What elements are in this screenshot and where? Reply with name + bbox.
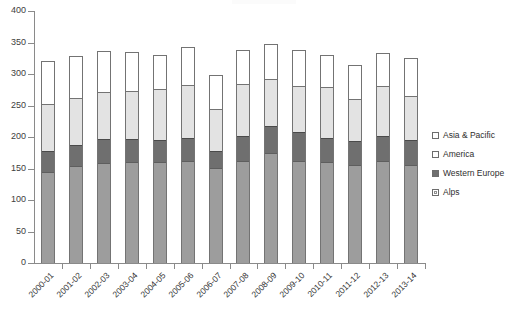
bar-segment-western-europe xyxy=(293,132,305,161)
x-axis-label-2011-12: 2011-12 xyxy=(334,271,362,299)
x-axis-tick xyxy=(118,264,119,269)
bar-segment-asia-pacific xyxy=(42,62,54,104)
bar-segment-america xyxy=(210,109,222,152)
x-axis-label-2010-11: 2010-11 xyxy=(306,271,334,299)
x-axis-label-2003-04: 2003-04 xyxy=(111,271,139,299)
stacked-bar-chart: 050100150200250300350400 2000-012001-022… xyxy=(0,0,525,321)
x-axis-tick xyxy=(425,264,426,269)
y-axis-label: 250 xyxy=(0,101,26,110)
bar-2010-11[interactable] xyxy=(320,55,334,263)
y-axis-label: 400 xyxy=(0,6,26,15)
y-axis-label-wrap: 250 xyxy=(0,101,26,110)
bar-segment-america xyxy=(182,85,194,138)
bar-segment-america xyxy=(237,84,249,135)
y-axis-label-wrap: 400 xyxy=(0,6,26,15)
y-axis-label-wrap: 100 xyxy=(0,195,26,204)
bar-2001-02[interactable] xyxy=(69,56,83,263)
bar-segment-western-europe xyxy=(42,151,54,172)
bar-segment-western-europe xyxy=(70,145,82,166)
bar-segment-asia-pacific xyxy=(321,56,333,87)
chart-legend: Asia & PacificAmericaWestern EuropeAlps xyxy=(432,126,524,202)
x-axis-tick xyxy=(313,264,314,269)
bar-segment-asia-pacific xyxy=(98,52,110,93)
legend-label: America xyxy=(443,150,474,159)
bar-segment-western-europe xyxy=(265,126,277,154)
bar-segment-america xyxy=(42,104,54,151)
bar-segment-america xyxy=(70,98,82,144)
y-axis-label: 150 xyxy=(0,164,26,173)
legend-label: Asia & Pacific xyxy=(443,131,495,140)
y-axis-label-wrap: 0 xyxy=(0,258,26,267)
bar-2006-07[interactable] xyxy=(209,75,223,263)
bar-segment-alps xyxy=(293,161,305,263)
bar-segment-alps xyxy=(70,166,82,263)
plot-area xyxy=(34,11,425,263)
bar-segment-alps xyxy=(126,162,138,263)
y-axis-label-wrap: 150 xyxy=(0,164,26,173)
bar-2008-09[interactable] xyxy=(264,44,278,263)
bar-segment-western-europe xyxy=(154,140,166,162)
bar-2005-06[interactable] xyxy=(181,47,195,263)
bar-segment-asia-pacific xyxy=(182,48,194,85)
bar-2007-08[interactable] xyxy=(236,50,250,263)
y-axis-label-wrap: 50 xyxy=(0,227,26,236)
bar-2013-14[interactable] xyxy=(404,58,418,263)
legend-label: Western Europe xyxy=(443,169,504,178)
bar-segment-alps xyxy=(405,165,417,263)
bar-segment-america xyxy=(377,86,389,136)
legend-swatch-icon xyxy=(432,170,439,177)
y-axis-label: 100 xyxy=(0,195,26,204)
bar-2012-13[interactable] xyxy=(376,53,390,263)
bar-segment-america xyxy=(265,79,277,125)
bar-segment-alps xyxy=(210,168,222,263)
x-axis-tick xyxy=(397,264,398,269)
bar-segment-alps xyxy=(42,172,54,263)
bar-segment-western-europe xyxy=(182,138,194,161)
y-axis-label-wrap: 200 xyxy=(0,132,26,141)
y-axis-label: 0 xyxy=(0,258,26,267)
bar-2004-05[interactable] xyxy=(153,55,167,263)
y-axis-label: 300 xyxy=(0,69,26,78)
bar-2003-04[interactable] xyxy=(125,52,139,263)
y-axis-label: 200 xyxy=(0,132,26,141)
x-axis-tick xyxy=(285,264,286,269)
x-axis-label-2013-14: 2013-14 xyxy=(390,271,418,299)
bar-segment-america xyxy=(293,86,305,132)
x-axis-tick xyxy=(62,264,63,269)
x-axis-tick xyxy=(257,264,258,269)
bar-segment-asia-pacific xyxy=(210,76,222,109)
bar-segment-western-europe xyxy=(210,151,222,167)
legend-item-asia-pacific[interactable]: Asia & Pacific xyxy=(432,126,524,145)
bar-2002-03[interactable] xyxy=(97,51,111,263)
bar-segment-asia-pacific xyxy=(265,45,277,79)
x-axis-label-2008-09: 2008-09 xyxy=(251,271,279,299)
x-axis-tick xyxy=(90,264,91,269)
x-axis-tick xyxy=(230,264,231,269)
legend-item-america[interactable]: America xyxy=(432,145,524,164)
bar-segment-asia-pacific xyxy=(237,51,249,84)
legend-item-alps[interactable]: Alps xyxy=(432,183,524,202)
legend-swatch-icon xyxy=(432,189,439,196)
x-axis-label-2012-13: 2012-13 xyxy=(362,271,390,299)
bar-2011-12[interactable] xyxy=(348,65,362,263)
bar-segment-asia-pacific xyxy=(405,59,417,96)
bar-2000-01[interactable] xyxy=(41,61,55,263)
bar-segment-western-europe xyxy=(237,136,249,162)
bar-segment-america xyxy=(349,99,361,142)
bar-segment-america xyxy=(405,96,417,141)
legend-swatch-icon xyxy=(432,132,439,139)
x-axis-tick xyxy=(174,264,175,269)
x-axis-tick xyxy=(341,264,342,269)
bar-segment-alps xyxy=(321,162,333,263)
x-axis-label-2005-06: 2005-06 xyxy=(167,271,195,299)
bar-segment-asia-pacific xyxy=(349,66,361,99)
legend-item-western-europe[interactable]: Western Europe xyxy=(432,164,524,183)
bar-segment-alps xyxy=(377,161,389,263)
legend-swatch-icon xyxy=(432,151,439,158)
bar-segment-asia-pacific xyxy=(70,57,82,98)
y-axis-label-wrap: 300 xyxy=(0,69,26,78)
bar-segment-western-europe xyxy=(98,139,110,163)
bar-segment-western-europe xyxy=(349,141,361,165)
x-axis-label-2004-05: 2004-05 xyxy=(139,271,167,299)
bar-2009-10[interactable] xyxy=(292,50,306,263)
